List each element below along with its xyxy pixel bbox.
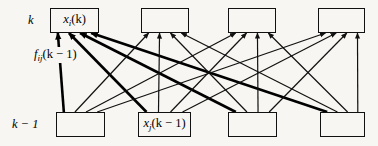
weight-label-f-ij: fij(k − 1) — [33, 47, 78, 63]
edge-b1-t2 — [75, 33, 149, 112]
edge-b2-t2 — [158, 33, 159, 112]
weight-argument: (k − 1) — [43, 47, 77, 61]
row-label-k-minus-1: k − 1 — [12, 117, 38, 132]
bottom-node-4[interactable] — [320, 112, 365, 137]
neural-network-diagram: k k − 1 fij(k − 1) xi(k) xj(k − 1) — [0, 0, 378, 146]
top-node-1-argument: (k) — [71, 12, 86, 26]
bottom-node-1[interactable] — [56, 112, 105, 137]
top-node-1-label: xi(k) — [63, 13, 86, 28]
row-label-k: k — [28, 13, 34, 28]
top-node-1[interactable]: xi(k) — [50, 8, 99, 33]
top-node-4[interactable] — [318, 8, 365, 33]
bottom-node-2[interactable]: xj(k − 1) — [138, 112, 191, 137]
edge-b3-t3 — [257, 33, 258, 112]
bottom-node-2-label: xj(k − 1) — [143, 117, 185, 132]
bottom-node-2-argument: (k − 1) — [151, 116, 185, 130]
top-node-2[interactable] — [141, 8, 189, 33]
top-node-3[interactable] — [228, 8, 276, 33]
edge-group — [58, 33, 358, 112]
edge-b1-t1 — [58, 33, 64, 112]
bottom-node-3[interactable] — [228, 112, 277, 137]
